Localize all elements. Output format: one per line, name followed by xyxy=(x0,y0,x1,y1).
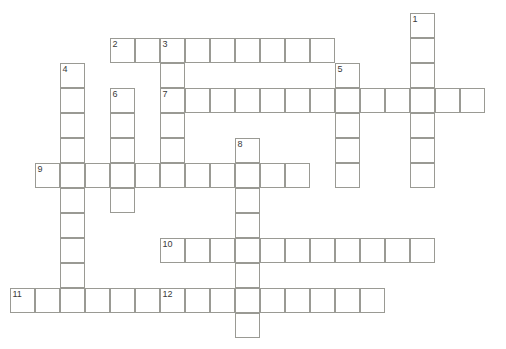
crossword-cell[interactable] xyxy=(260,163,285,188)
crossword-cell[interactable] xyxy=(60,88,85,113)
crossword-cell[interactable]: 1 xyxy=(410,13,435,38)
crossword-cell[interactable]: 11 xyxy=(10,288,35,313)
crossword-cell[interactable] xyxy=(335,138,360,163)
crossword-cell[interactable] xyxy=(335,238,360,263)
crossword-cell[interactable] xyxy=(135,38,160,63)
crossword-cell[interactable] xyxy=(185,163,210,188)
crossword-cell[interactable] xyxy=(260,38,285,63)
crossword-cell[interactable] xyxy=(110,288,135,313)
crossword-cell[interactable]: 6 xyxy=(110,88,135,113)
crossword-cell[interactable] xyxy=(335,113,360,138)
crossword-cell[interactable] xyxy=(235,163,260,188)
crossword-cell[interactable] xyxy=(210,163,235,188)
crossword-cell[interactable] xyxy=(35,288,60,313)
crossword-cell[interactable] xyxy=(410,38,435,63)
crossword-cell[interactable] xyxy=(410,113,435,138)
crossword-cell[interactable] xyxy=(210,88,235,113)
crossword-cell[interactable] xyxy=(85,163,110,188)
crossword-cell[interactable] xyxy=(235,313,260,338)
cell-number-6: 6 xyxy=(113,89,118,99)
crossword-cell[interactable] xyxy=(285,163,310,188)
cell-number-9: 9 xyxy=(38,164,43,174)
crossword-cell[interactable] xyxy=(160,163,185,188)
crossword-cell[interactable] xyxy=(235,213,260,238)
crossword-cell[interactable] xyxy=(60,263,85,288)
cell-number-8: 8 xyxy=(238,139,243,149)
crossword-cell[interactable] xyxy=(410,238,435,263)
crossword-cell[interactable] xyxy=(60,163,85,188)
crossword-cell[interactable] xyxy=(285,88,310,113)
crossword-cell[interactable] xyxy=(60,213,85,238)
crossword-cell[interactable] xyxy=(210,38,235,63)
crossword-cell[interactable] xyxy=(385,88,410,113)
crossword-cell[interactable] xyxy=(435,88,460,113)
cell-number-1: 1 xyxy=(413,14,418,24)
crossword-cell[interactable] xyxy=(60,238,85,263)
crossword-cell[interactable] xyxy=(235,263,260,288)
cell-number-7: 7 xyxy=(163,89,168,99)
crossword-cell[interactable] xyxy=(285,288,310,313)
crossword-cell[interactable] xyxy=(135,288,160,313)
crossword-cell[interactable] xyxy=(410,88,435,113)
crossword-cell[interactable] xyxy=(410,138,435,163)
crossword-cell[interactable]: 3 xyxy=(160,38,185,63)
cell-number-10: 10 xyxy=(163,239,173,249)
crossword-cell[interactable]: 12 xyxy=(160,288,185,313)
crossword-cell[interactable] xyxy=(310,238,335,263)
crossword-cell[interactable] xyxy=(60,188,85,213)
crossword-cell[interactable] xyxy=(110,188,135,213)
crossword-cell[interactable] xyxy=(360,238,385,263)
crossword-cell[interactable] xyxy=(210,238,235,263)
crossword-cell[interactable]: 5 xyxy=(335,63,360,88)
crossword-cell[interactable] xyxy=(110,163,135,188)
crossword-cell[interactable] xyxy=(460,88,485,113)
crossword-cell[interactable] xyxy=(335,288,360,313)
crossword-cell[interactable] xyxy=(60,288,85,313)
crossword-cell[interactable] xyxy=(235,238,260,263)
crossword-cell[interactable] xyxy=(260,288,285,313)
crossword-cell[interactable]: 4 xyxy=(60,63,85,88)
crossword-cell[interactable] xyxy=(160,113,185,138)
crossword-cell[interactable] xyxy=(235,288,260,313)
crossword-grid: 123456789101112 xyxy=(0,0,506,349)
crossword-cell[interactable] xyxy=(335,163,360,188)
crossword-cell[interactable] xyxy=(185,288,210,313)
crossword-cell[interactable] xyxy=(160,63,185,88)
cell-number-12: 12 xyxy=(163,289,173,299)
cell-number-3: 3 xyxy=(163,39,168,49)
crossword-cell[interactable] xyxy=(360,288,385,313)
crossword-cell[interactable] xyxy=(60,113,85,138)
crossword-cell[interactable] xyxy=(310,288,335,313)
crossword-cell[interactable] xyxy=(110,138,135,163)
crossword-cell[interactable] xyxy=(160,138,185,163)
crossword-cell[interactable] xyxy=(235,88,260,113)
crossword-cell[interactable] xyxy=(310,88,335,113)
crossword-cell[interactable] xyxy=(85,288,110,313)
crossword-cell[interactable] xyxy=(285,38,310,63)
crossword-cell[interactable] xyxy=(360,88,385,113)
crossword-cell[interactable] xyxy=(260,238,285,263)
crossword-cell[interactable] xyxy=(310,38,335,63)
cell-number-4: 4 xyxy=(63,64,68,74)
crossword-cell[interactable] xyxy=(185,38,210,63)
crossword-cell[interactable] xyxy=(135,163,160,188)
crossword-cell[interactable] xyxy=(110,113,135,138)
crossword-cell[interactable] xyxy=(260,88,285,113)
crossword-cell[interactable] xyxy=(60,138,85,163)
crossword-cell[interactable] xyxy=(410,163,435,188)
crossword-cell[interactable] xyxy=(335,88,360,113)
crossword-cell[interactable]: 10 xyxy=(160,238,185,263)
crossword-cell[interactable] xyxy=(185,238,210,263)
crossword-cell[interactable] xyxy=(385,238,410,263)
crossword-cell[interactable] xyxy=(185,88,210,113)
crossword-cell[interactable] xyxy=(410,63,435,88)
cell-number-2: 2 xyxy=(113,39,118,49)
crossword-cell[interactable]: 8 xyxy=(235,138,260,163)
crossword-cell[interactable] xyxy=(285,238,310,263)
crossword-cell[interactable] xyxy=(235,188,260,213)
crossword-cell[interactable]: 7 xyxy=(160,88,185,113)
crossword-cell[interactable]: 2 xyxy=(110,38,135,63)
crossword-cell[interactable] xyxy=(210,288,235,313)
crossword-cell[interactable]: 9 xyxy=(35,163,60,188)
crossword-cell[interactable] xyxy=(235,38,260,63)
